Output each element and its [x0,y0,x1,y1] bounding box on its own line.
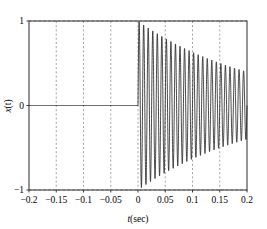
x-tick-label: 0.2 [241,195,253,205]
damped-sinusoid-chart: −0.2−0.15−0.1−0.0500.050.10.150.2 −101 t… [0,0,267,229]
x-tick-label: 0.15 [211,195,228,205]
y-tick-label: −1 [14,185,24,195]
x-tick-label: −0.1 [75,195,92,205]
y-tick-label: 0 [19,101,24,111]
y-tick-label: 1 [19,16,24,26]
x-tick-label: 0.05 [157,195,174,205]
x-tick-label: 0.1 [187,195,199,205]
x-tick-label: 0 [136,195,141,205]
x-tick-label: −0.05 [100,195,122,205]
x-axis-title-text: t(sec) [127,214,148,225]
x-axis-tick-labels: −0.2−0.15−0.1−0.0500.050.10.150.2 [20,195,253,205]
x-axis-title: t(sec) [127,214,148,225]
x-tick-label: −0.2 [20,195,37,205]
y-axis-title-text: x(t) [3,99,14,113]
figure-container: −0.2−0.15−0.1−0.0500.050.10.150.2 −101 t… [0,0,267,229]
y-axis-title: x(t) [3,99,14,113]
x-tick-label: −0.15 [45,195,67,205]
